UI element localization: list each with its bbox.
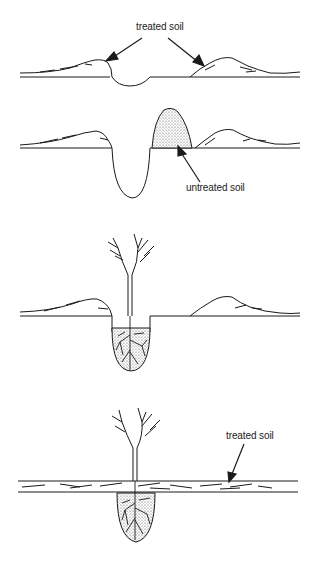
panel-4-tree-crown (112, 408, 160, 481)
label-treated-soil-top: treated soil (136, 21, 184, 32)
panel-4-arrow (228, 444, 244, 482)
panel-3-planted-tree (20, 297, 300, 333)
panel-4-treated-soil-layer (18, 481, 298, 492)
panel-3-root-ball (112, 328, 150, 371)
untreated-soil-mound (152, 108, 192, 148)
label-treated-soil-bottom: treated soil (226, 430, 274, 441)
panel-2-arrow (178, 146, 200, 182)
panel-1-arrows (106, 38, 204, 66)
soil-treatment-diagram (0, 0, 318, 562)
label-untreated-soil: untreated soil (186, 182, 245, 193)
panel-3-tree-crown (108, 234, 154, 316)
panel-1-shallow-depression (20, 58, 300, 86)
